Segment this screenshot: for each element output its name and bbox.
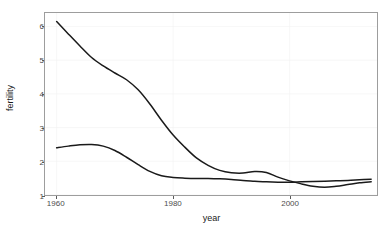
- x-tick-label: 1960: [47, 199, 65, 208]
- plot-svg: [45, 13, 377, 195]
- line-series-lower: [57, 144, 372, 182]
- x-axis-title-label: year: [203, 213, 221, 223]
- x-tick-mark: [290, 196, 291, 199]
- line-series-upper: [57, 21, 372, 187]
- x-tick-label: 1980: [164, 199, 182, 208]
- plot-panel: [44, 12, 378, 196]
- fertility-line-chart: fertility 123456 196019802000 year: [0, 0, 390, 233]
- x-tick-mark: [173, 196, 174, 199]
- x-axis-title: year: [44, 213, 379, 223]
- x-tick-label: 2000: [281, 199, 299, 208]
- x-tick-mark: [56, 196, 57, 199]
